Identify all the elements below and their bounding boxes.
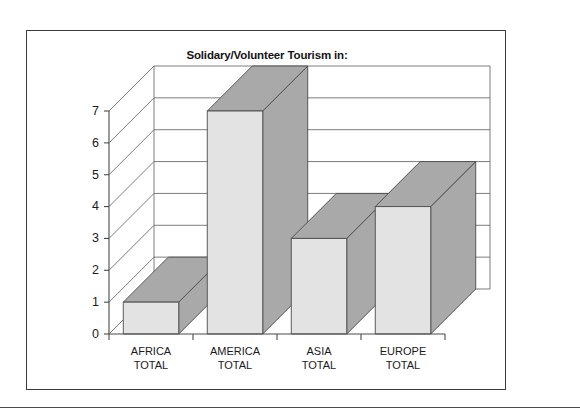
- y-axis-tick-label: 7: [92, 104, 99, 118]
- y-axis-tick-label: 2: [92, 263, 99, 277]
- bar-front-face: [207, 111, 262, 334]
- bottom-separator-rule: [0, 407, 580, 408]
- bar-front-face: [375, 207, 430, 334]
- y-axis-tick-label: 5: [92, 168, 99, 182]
- x-axis-category-label: AMERICATOTAL: [210, 345, 261, 371]
- bar-front-face: [123, 302, 178, 334]
- y-axis-tick-label: 4: [92, 199, 99, 213]
- chart-figure-frame: Solidary/Volunteer Tourism in: 01234567A…: [26, 30, 506, 390]
- y-axis-tick-label: 0: [92, 327, 99, 341]
- x-axis-category-label: ASIATOTAL: [302, 345, 336, 371]
- y-axis-tick-label: 3: [92, 231, 99, 245]
- x-axis-category-label: AFRICATOTAL: [131, 345, 172, 371]
- x-axis-category-label: EUROPETOTAL: [380, 345, 426, 371]
- y-axis-tick-label: 1: [92, 295, 99, 309]
- bar-chart-plot: 01234567AFRICATOTALAMERICATOTALASIATOTAL…: [27, 31, 507, 391]
- y-axis-tick-label: 6: [92, 136, 99, 150]
- bar-front-face: [291, 238, 346, 334]
